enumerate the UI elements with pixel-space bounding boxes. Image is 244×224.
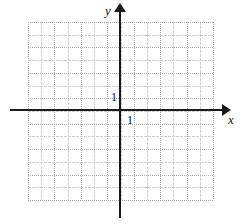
y-axis-label: y [105,4,111,17]
y-axis-arrow-icon [114,3,126,12]
x-axis-unit-tick-label: 1 [127,114,133,126]
coordinate-plane-figure: y x 1 1 [0,0,244,224]
y-axis-line [119,7,121,218]
grid-vertical-line [213,22,214,200]
y-axis-unit-tick-label: 1 [111,91,117,103]
x-axis-label: x [228,113,234,126]
x-axis-line [10,109,226,111]
